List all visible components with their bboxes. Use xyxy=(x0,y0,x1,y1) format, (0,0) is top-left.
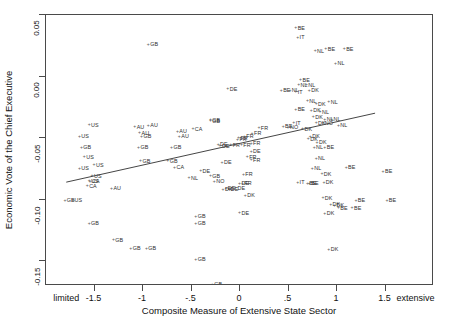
data-point-label: GB xyxy=(115,237,123,243)
data-point-label: NL xyxy=(318,155,325,161)
point-marker-icon: + xyxy=(194,220,197,226)
data-point-label: GB xyxy=(198,256,206,262)
data-point-label: DK xyxy=(247,192,255,198)
data-point-label: AU xyxy=(181,133,189,139)
data-point-label: GB xyxy=(133,245,141,251)
data-point: +BE xyxy=(345,164,356,171)
point-marker-icon: + xyxy=(242,171,245,177)
data-point: +BE xyxy=(382,168,393,175)
data-point: +DK xyxy=(222,186,233,193)
point-marker-icon: + xyxy=(324,45,327,51)
data-point: +GB xyxy=(112,236,123,243)
data-point: +US xyxy=(88,121,99,128)
data-point-label: NL xyxy=(316,144,323,150)
data-point-label: DE xyxy=(238,185,246,191)
data-point: +BE xyxy=(294,106,305,113)
point-marker-icon: + xyxy=(257,124,260,130)
data-point: +FR xyxy=(229,141,240,148)
point-marker-icon: + xyxy=(93,161,96,167)
data-point-label: GB xyxy=(174,144,182,150)
point-marker-icon: + xyxy=(345,164,348,170)
data-point: +CA xyxy=(191,125,202,132)
point-marker-icon: + xyxy=(88,121,91,127)
x-axis-tick xyxy=(288,285,289,291)
point-marker-icon: + xyxy=(311,165,314,171)
data-point: +CA xyxy=(89,178,100,185)
data-point-label: BE xyxy=(354,205,361,211)
data-point-label: BE xyxy=(385,168,392,174)
data-point: +IT xyxy=(296,34,304,41)
x-axis-tick-label: 1 xyxy=(333,293,338,303)
x-axis-tick-label: -.5 xyxy=(185,293,196,303)
data-point-label: IT xyxy=(300,179,305,185)
data-point-label: AU xyxy=(113,185,121,191)
data-point-label: GB xyxy=(83,144,91,150)
x-axis-title: Composite Measure of Extensive State Sec… xyxy=(45,305,433,316)
point-marker-icon: + xyxy=(199,167,202,173)
data-point-label: BE xyxy=(327,144,334,150)
data-point: +DE xyxy=(226,85,237,92)
point-marker-icon: + xyxy=(234,184,237,190)
data-point: +DE xyxy=(234,184,245,191)
data-point-label: GB xyxy=(212,118,220,124)
y-axis-title: Economic Vote of the Chief Executive xyxy=(2,14,14,285)
data-point: +US xyxy=(78,165,89,172)
point-marker-icon: + xyxy=(213,178,216,184)
point-marker-icon: + xyxy=(80,144,83,150)
point-marker-icon: + xyxy=(354,197,357,203)
data-point-label: NL xyxy=(340,122,347,128)
data-point-label: US xyxy=(96,162,104,168)
data-point-label: GB xyxy=(141,144,149,150)
point-marker-icon: + xyxy=(337,122,340,128)
data-point: +DK xyxy=(327,245,338,252)
point-marker-icon: + xyxy=(308,87,311,93)
data-point: +FR xyxy=(242,171,253,178)
data-point: +GB xyxy=(137,144,148,151)
data-point-label: BE xyxy=(346,46,353,52)
point-marker-icon: + xyxy=(112,236,115,242)
data-point: +NO xyxy=(213,178,225,185)
y-axis-tick-label: 0.05 xyxy=(33,20,42,36)
point-marker-icon: + xyxy=(219,142,222,148)
data-point-label: NL xyxy=(191,175,198,181)
data-point: +GB xyxy=(194,256,205,263)
x-axis-tick-label: .5 xyxy=(284,293,292,303)
data-point-label: NL xyxy=(337,60,344,66)
y-axis-tick-label: -0.10 xyxy=(33,206,42,224)
point-marker-icon: + xyxy=(321,119,324,125)
data-point: +GB xyxy=(194,213,205,220)
point-marker-icon: + xyxy=(329,201,332,207)
data-point: +GB xyxy=(140,132,151,139)
data-point: +FR xyxy=(250,139,261,146)
point-marker-icon: + xyxy=(83,153,86,159)
point-marker-icon: + xyxy=(221,159,224,165)
point-marker-icon: + xyxy=(315,119,318,125)
data-point-label: CA xyxy=(195,126,203,132)
point-marker-icon: + xyxy=(287,124,290,130)
point-marker-icon: + xyxy=(321,194,324,200)
data-point-label: GB xyxy=(142,158,150,164)
point-marker-icon: + xyxy=(312,113,315,119)
point-marker-icon: + xyxy=(343,45,346,51)
y-axis-tick-label: -0.05 xyxy=(33,145,42,163)
data-point: +DK xyxy=(244,192,255,199)
point-marker-icon: + xyxy=(315,155,318,161)
data-point: +GB xyxy=(194,220,205,227)
data-point: +BE xyxy=(343,45,354,52)
point-marker-icon: + xyxy=(306,180,309,186)
data-point: +GB xyxy=(139,157,150,164)
data-point-label: AU xyxy=(150,122,158,128)
data-point-label: NO xyxy=(216,178,224,184)
data-point: +NL xyxy=(188,174,199,181)
data-point-label: FR xyxy=(244,180,251,186)
point-marker-icon: + xyxy=(211,281,214,284)
data-point-label: US xyxy=(86,154,94,160)
data-point: +FR xyxy=(257,124,268,131)
data-point-label: DK xyxy=(225,186,233,192)
point-marker-icon: + xyxy=(251,130,254,136)
data-point: +NL xyxy=(313,144,324,151)
x-axis-tick xyxy=(191,285,192,291)
y-axis-title-label: Economic Vote of the Chief Executive xyxy=(3,70,14,228)
x-axis-tick xyxy=(142,285,143,291)
point-marker-icon: + xyxy=(282,123,285,129)
